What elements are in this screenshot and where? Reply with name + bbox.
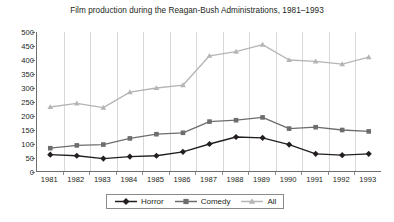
x-axis: 1981198219831984198519861987198819891990… <box>0 0 394 222</box>
x-tick-mark <box>275 172 276 175</box>
x-tick-mark <box>195 172 196 175</box>
data-point-marker <box>122 198 129 205</box>
x-tick-mark <box>301 172 302 175</box>
x-tick-label: 1985 <box>147 175 164 184</box>
legend-item-all[interactable]: All <box>240 197 276 206</box>
x-tick-mark <box>116 172 117 175</box>
x-tick-label: 1983 <box>94 175 111 184</box>
legend-item-horror[interactable]: Horror <box>114 197 164 206</box>
data-point-marker <box>183 199 188 204</box>
x-tick-label: 1981 <box>41 175 58 184</box>
x-tick-label: 1984 <box>120 175 137 184</box>
x-tick-mark <box>142 172 143 175</box>
x-tick-mark <box>248 172 249 175</box>
legend-label: Horror <box>141 197 164 206</box>
x-tick-label: 1990 <box>280 175 297 184</box>
x-tick-label: 1986 <box>174 175 191 184</box>
x-tick-label: 1989 <box>253 175 270 184</box>
x-tick-mark <box>222 172 223 175</box>
chart-container: Film production during the Reagan-Bush A… <box>0 0 394 222</box>
legend-marker-diamond-icon <box>114 197 138 206</box>
legend-marker-triangle-icon <box>240 197 264 206</box>
legend-label: All <box>267 197 276 206</box>
legend-item-comedy[interactable]: Comedy <box>174 197 231 206</box>
x-tick-mark <box>328 172 329 175</box>
x-tick-mark <box>63 172 64 175</box>
x-tick-label: 1991 <box>306 175 323 184</box>
x-tick-mark <box>169 172 170 175</box>
x-tick-label: 1988 <box>227 175 244 184</box>
x-tick-label: 1992 <box>333 175 350 184</box>
x-tick-mark <box>354 172 355 175</box>
x-tick-label: 1982 <box>67 175 84 184</box>
x-tick-mark <box>89 172 90 175</box>
x-tick-label: 1993 <box>359 175 376 184</box>
x-tick-label: 1987 <box>200 175 217 184</box>
legend-marker-square-icon <box>174 197 198 206</box>
legend-label: Comedy <box>201 197 231 206</box>
chart-legend: HorrorComedyAll <box>106 194 284 209</box>
